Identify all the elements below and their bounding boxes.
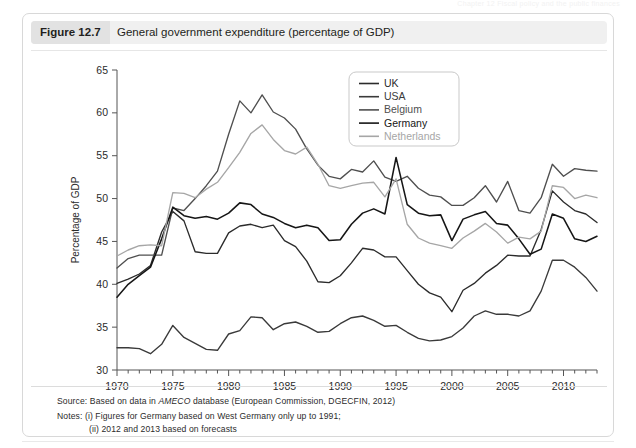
y-axis-tick-label: 50 [96,192,108,204]
legend-label-germany: Germany [384,117,428,129]
figure-caption-bar: Figure 12.7 General government expenditu… [31,21,607,44]
figure-root: Chapter 12 Fiscal policy and the public … [0,0,636,448]
chart-area: 3035404550556065197019751980198519901995… [31,54,607,396]
chart-legend: UKUSABelgiumGermanyNetherlands [349,72,459,146]
legend-label-usa: USA [384,90,406,102]
y-axis-tick-label: 55 [96,149,108,161]
axis-layer: 3035404550556065197019751980198519901995… [70,64,597,393]
y-axis-tick-label: 45 [96,235,108,247]
figure-source: Source: Based on data in AMECO database … [57,396,395,406]
legend-label-netherlands: Netherlands [384,130,441,142]
source-suffix: database (European Commission, DGECFIN, … [190,396,395,406]
figure-panel: Figure 12.7 General government expenditu… [22,13,614,437]
caption-divider [31,50,607,51]
series-line-usa [117,260,597,353]
series-line-germany [117,157,597,297]
legend-label-belgium: Belgium [384,103,422,115]
footer-divider [31,386,607,387]
y-axis-tick-label: 40 [96,278,108,290]
y-axis-tick-label: 65 [96,64,108,76]
source-database-name: AMECO [158,396,190,406]
figure-note-2: (ii) 2012 and 2013 based on forecasts [89,424,237,434]
y-axis-title: Percentage of GDP [70,176,81,263]
source-prefix: Source: Based on data in [57,396,158,406]
figure-number-label: Figure 12.7 [31,21,110,44]
figure-caption-text: General government expenditure (percenta… [117,21,394,44]
legend-label-uk: UK [384,77,399,89]
figure-note-1: Notes: (i) Figures for Germany based on … [57,411,341,421]
series-line-uk [117,191,597,312]
y-axis-tick-label: 60 [96,106,108,118]
running-head: Chapter 12 Fiscal policy and the public … [457,0,620,7]
line-chart: 3035404550556065197019751980198519901995… [31,54,607,396]
y-axis-tick-label: 30 [96,364,108,376]
page-bottom-rule [22,441,614,442]
y-axis-tick-label: 35 [96,321,108,333]
